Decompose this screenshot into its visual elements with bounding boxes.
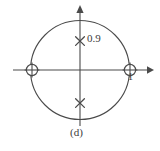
zero-marker-left-icon bbox=[25, 63, 40, 78]
pole-zero-figure: 0.9 1 (d) bbox=[0, 0, 160, 151]
subfigure-caption: (d) bbox=[70, 127, 83, 138]
pole-magnitude-label: 0.9 bbox=[87, 33, 101, 44]
zero-magnitude-label: 1 bbox=[128, 72, 133, 82]
real-axis-arrowhead-icon bbox=[147, 66, 154, 73]
imaginary-axis-arrowhead-icon bbox=[76, 5, 83, 13]
